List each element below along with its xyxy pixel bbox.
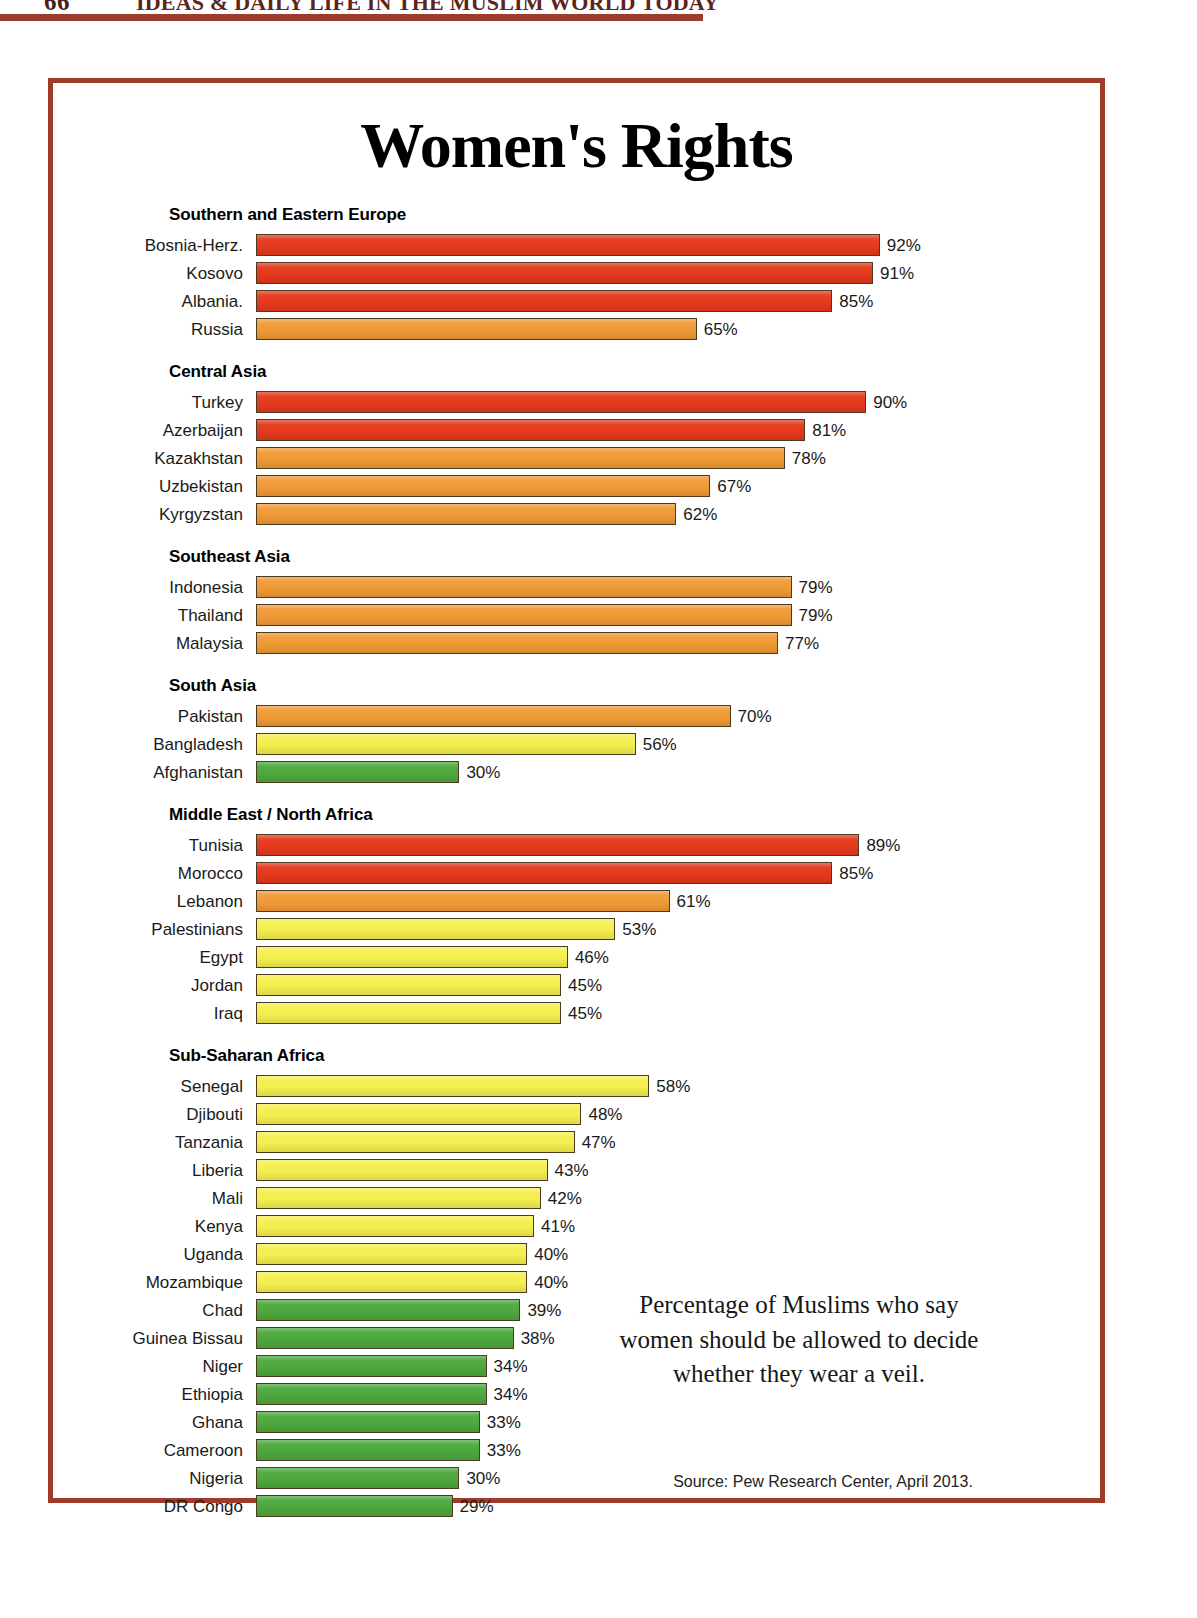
bar-value-label: 85% <box>839 292 873 312</box>
bar-value-label: 79% <box>799 606 833 626</box>
bar <box>256 1103 581 1125</box>
bar-value-label: 77% <box>785 634 819 654</box>
bar-value-label: 39% <box>527 1301 561 1321</box>
bar-group-title: Central Asia <box>169 362 1100 382</box>
bar-row: Palestinians53% <box>53 917 1100 942</box>
bar-row-label: Kyrgyzstan <box>53 505 243 525</box>
bar-value-label: 53% <box>622 920 656 940</box>
bar-row: Mali42% <box>53 1186 1100 1211</box>
bar-value-label: 85% <box>839 864 873 884</box>
bar-value-label: 33% <box>487 1441 521 1461</box>
bar <box>256 1215 534 1237</box>
bar-row: Tunisia89% <box>53 833 1100 858</box>
bar <box>256 447 785 469</box>
bar-value-label: 40% <box>534 1245 568 1265</box>
bar-row-label: Afghanistan <box>53 763 243 783</box>
bar-row: Pakistan70% <box>53 704 1100 729</box>
bar-value-label: 81% <box>812 421 846 441</box>
bar-value-label: 89% <box>866 836 900 856</box>
chart-poster: Women's Rights Southern and Eastern Euro… <box>48 78 1105 1503</box>
bar-row: Uzbekistan67% <box>53 474 1100 499</box>
bar-row: Malaysia77% <box>53 631 1100 656</box>
bar-row-label: Albania. <box>53 292 243 312</box>
bar <box>256 262 873 284</box>
bar-row-label: Ghana <box>53 1413 243 1433</box>
page-title: Women's Rights <box>53 109 1100 183</box>
bar <box>256 391 866 413</box>
bar-row: Lebanon61% <box>53 889 1100 914</box>
bar-row-label: Malaysia <box>53 634 243 654</box>
bar-group-title: Middle East / North Africa <box>169 805 1100 825</box>
bar <box>256 733 636 755</box>
bar-row: Jordan45% <box>53 973 1100 998</box>
bar-row: Djibouti48% <box>53 1102 1100 1127</box>
bar <box>256 419 805 441</box>
bar-row-label: Lebanon <box>53 892 243 912</box>
bar-row: Thailand79% <box>53 603 1100 628</box>
bar-value-label: 34% <box>494 1357 528 1377</box>
bar-value-label: 92% <box>887 236 921 256</box>
bar-row-label: Iraq <box>53 1004 243 1024</box>
bar-value-label: 67% <box>717 477 751 497</box>
bar-row: Indonesia79% <box>53 575 1100 600</box>
bar-value-label: 65% <box>704 320 738 340</box>
bar <box>256 761 459 783</box>
bar <box>256 1355 487 1377</box>
bar <box>256 1187 541 1209</box>
bar-row-label: Thailand <box>53 606 243 626</box>
bar-value-label: 46% <box>575 948 609 968</box>
bar <box>256 1131 575 1153</box>
bar <box>256 1075 649 1097</box>
bar <box>256 503 676 525</box>
bar <box>256 1299 520 1321</box>
bar <box>256 1327 514 1349</box>
bar-value-label: 45% <box>568 1004 602 1024</box>
bar <box>256 862 832 884</box>
bar-row-label: Egypt <box>53 948 243 968</box>
bar-value-label: 30% <box>466 763 500 783</box>
chart-source: Source: Pew Research Center, April 2013. <box>613 1473 1033 1491</box>
bar-row-label: Kazakhstan <box>53 449 243 469</box>
bar-row: Kyrgyzstan62% <box>53 502 1100 527</box>
bar-value-label: 34% <box>494 1385 528 1405</box>
bar <box>256 1467 459 1489</box>
bar-value-label: 29% <box>460 1497 494 1517</box>
bar-row-label: DR Congo <box>53 1497 243 1517</box>
bar-row-label: Chad <box>53 1301 243 1321</box>
bar-row-label: Jordan <box>53 976 243 996</box>
bar-value-label: 78% <box>792 449 826 469</box>
bar <box>256 974 561 996</box>
bar-value-label: 33% <box>487 1413 521 1433</box>
bar-row-label: Kosovo <box>53 264 243 284</box>
header-rule <box>0 14 703 21</box>
bar <box>256 318 697 340</box>
bar <box>256 918 615 940</box>
bar-row: Kazakhstan78% <box>53 446 1100 471</box>
bar <box>256 632 778 654</box>
bar-row-label: Tunisia <box>53 836 243 856</box>
bar-row: Russia65% <box>53 317 1100 342</box>
bar-row: Iraq45% <box>53 1001 1100 1026</box>
bar-value-label: 56% <box>643 735 677 755</box>
bar-value-label: 91% <box>880 264 914 284</box>
bar-value-label: 58% <box>656 1077 690 1097</box>
bar-row: Bangladesh56% <box>53 732 1100 757</box>
bar-row-label: Mozambique <box>53 1273 243 1293</box>
bar-row-label: Pakistan <box>53 707 243 727</box>
bar-row-label: Liberia <box>53 1161 243 1181</box>
bar-row-label: Bosnia-Herz. <box>53 236 243 256</box>
bar <box>256 1159 548 1181</box>
bar-group: Central AsiaTurkey90%Azerbaijan81%Kazakh… <box>53 362 1100 527</box>
bar <box>256 834 859 856</box>
chart-caption: Percentage of Muslims who say women shou… <box>619 1288 979 1392</box>
bar-value-label: 45% <box>568 976 602 996</box>
bar-value-label: 47% <box>582 1133 616 1153</box>
bar-value-label: 30% <box>466 1469 500 1489</box>
bar <box>256 946 568 968</box>
bar-value-label: 43% <box>555 1161 589 1181</box>
bar-row: Kosovo91% <box>53 261 1100 286</box>
bar-row: Cameroon33% <box>53 1438 1100 1463</box>
bar-row: Egypt46% <box>53 945 1100 970</box>
bar <box>256 576 792 598</box>
bar-group-title: Sub-Saharan Africa <box>169 1046 1100 1066</box>
